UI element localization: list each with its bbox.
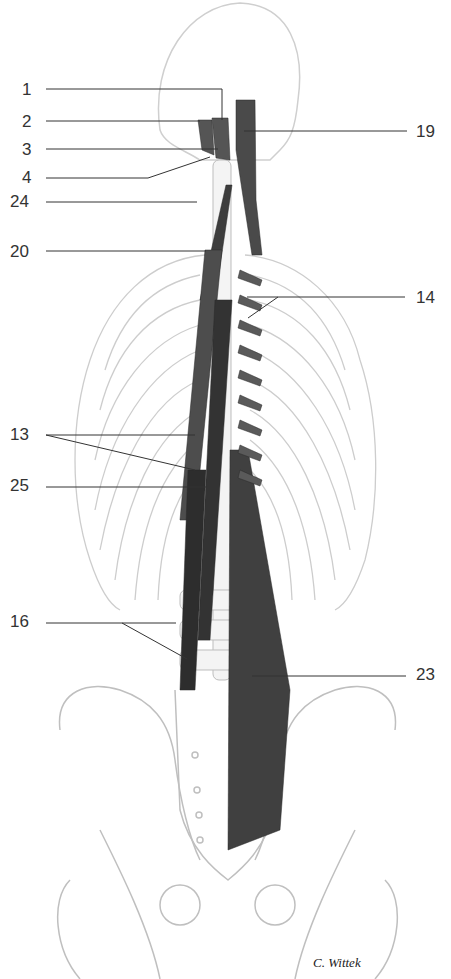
label-16: 16 xyxy=(10,613,29,630)
label-13: 13 xyxy=(10,426,29,443)
pelvis xyxy=(58,686,398,979)
leader-line-4 xyxy=(46,157,210,178)
label-19: 19 xyxy=(416,123,435,140)
label-2: 2 xyxy=(22,113,31,130)
artist-signature: C. Wittek xyxy=(313,955,361,971)
label-1: 1 xyxy=(22,81,31,98)
label-25: 25 xyxy=(10,477,29,494)
label-20: 20 xyxy=(10,243,29,260)
label-4: 4 xyxy=(22,169,31,186)
muscles xyxy=(180,100,290,850)
label-3: 3 xyxy=(22,141,31,158)
anatomy-figure xyxy=(0,0,451,979)
leader-line-1 xyxy=(46,89,222,120)
label-24: 24 xyxy=(10,193,29,210)
label-14: 14 xyxy=(416,289,435,306)
label-23: 23 xyxy=(416,666,435,683)
leader-line-13b xyxy=(46,435,195,470)
